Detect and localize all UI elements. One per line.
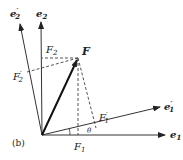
label-F1: F1 bbox=[73, 141, 85, 154]
label-e1: e1 bbox=[170, 129, 181, 142]
axis-e2-prime bbox=[20, 24, 42, 135]
label-e2-prime: e′2 bbox=[10, 6, 20, 21]
label-e1-prime: e′1 bbox=[164, 99, 174, 114]
vector-decomposition-diagram: e′2 e2 F2 F′2 F F′1 θ F1 e′1 e1 (b) bbox=[0, 0, 183, 160]
projection-lines bbox=[27, 58, 96, 135]
label-e2: e2 bbox=[36, 8, 47, 21]
angle-arc bbox=[69, 129, 70, 135]
label-F2-prime: F′2 bbox=[12, 70, 24, 84]
figure-label: (b) bbox=[12, 138, 25, 148]
label-theta: θ bbox=[87, 127, 92, 135]
axis-e2 bbox=[41, 22, 42, 135]
label-F1-prime: F′1 bbox=[98, 111, 109, 125]
vector-F bbox=[42, 60, 77, 135]
proj-F2p bbox=[27, 58, 78, 72]
proj-F1p bbox=[78, 58, 96, 128]
label-F: F bbox=[81, 45, 91, 58]
diagram-canvas: e′2 e2 F2 F′2 F F′1 θ F1 e′1 e1 (b) bbox=[0, 0, 183, 160]
label-F2: F2 bbox=[45, 44, 58, 57]
